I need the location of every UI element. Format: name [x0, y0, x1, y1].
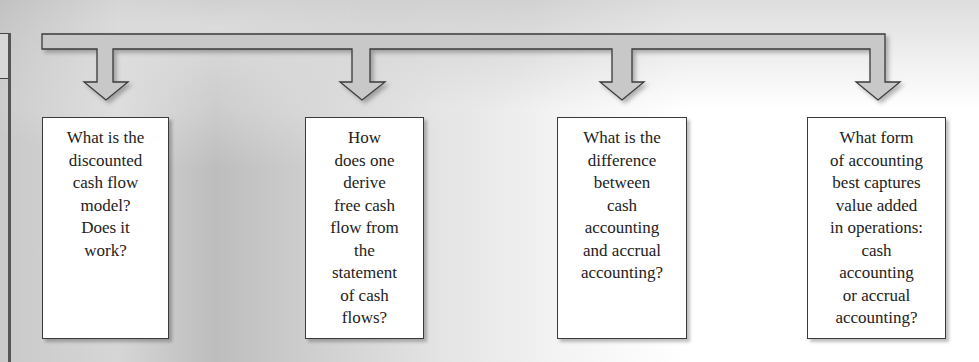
question-box-value-added: What form of accounting best captures va…	[807, 117, 946, 339]
question-text: How does one derive free cash flow from …	[306, 127, 423, 330]
question-text: What is the discounted cash flow model? …	[43, 127, 168, 262]
bracket-arrows-shape	[42, 34, 900, 100]
question-box-cash-vs-accrual: What is the difference between cash acco…	[557, 117, 687, 339]
question-box-free-cash-flow: How does one derive free cash flow from …	[305, 117, 424, 339]
question-text: What form of accounting best captures va…	[808, 127, 945, 330]
bracket-connector	[0, 0, 979, 120]
question-box-dcf-model: What is the discounted cash flow model? …	[42, 117, 169, 339]
question-text: What is the difference between cash acco…	[558, 127, 686, 285]
